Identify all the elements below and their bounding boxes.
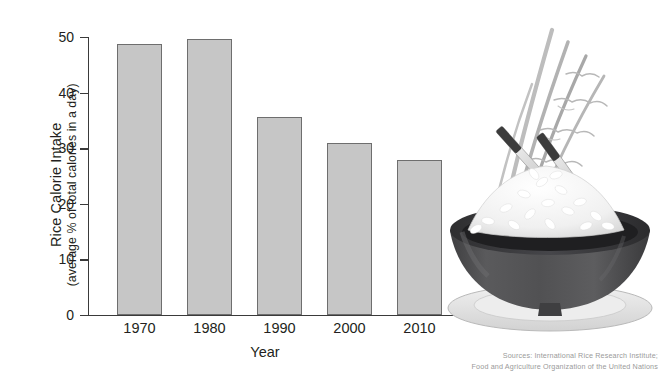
bar-1980[interactable] <box>187 39 232 315</box>
chart-figure: Rice Calorie Intake (average % of total … <box>0 0 666 384</box>
bar-2000[interactable] <box>327 143 372 315</box>
x-axis-label-2000: 2000 <box>315 320 385 336</box>
bar-1990[interactable] <box>257 117 302 315</box>
x-axis-label-1990: 1990 <box>245 320 315 336</box>
source-line-1: Sources: International Rice Research Ins… <box>358 350 658 361</box>
x-axis-label-1970: 1970 <box>105 320 175 336</box>
rice-bowl-svg <box>428 8 666 338</box>
bar-1970[interactable] <box>117 44 162 315</box>
source-note: Sources: International Rice Research Ins… <box>358 350 658 372</box>
rice-bowl-illustration <box>428 8 666 338</box>
rice-above-rim <box>468 166 624 238</box>
source-line-2: Food and Agriculture Organization of the… <box>358 361 658 372</box>
x-axis-label-1980: 1980 <box>175 320 245 336</box>
